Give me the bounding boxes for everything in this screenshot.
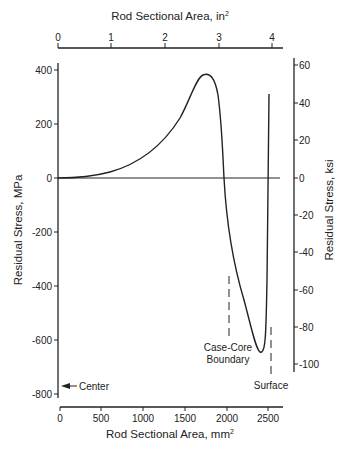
svg-text:-800: -800	[32, 389, 52, 400]
svg-text:-60: -60	[299, 285, 314, 296]
svg-text:200: 200	[35, 119, 52, 130]
bottom-axis-ticks: 0 500 1000 1500 2000 2500	[57, 407, 279, 424]
left-axis-ticks: 400 200 0 -200 -400 -600 -800	[32, 65, 58, 400]
residual-stress-chart: Rod Sectional Area, in2 0 1 2 3 4 400 20…	[0, 0, 343, 452]
svg-text:20: 20	[299, 135, 311, 146]
top-axis-ticks: 0 1 2 3 4	[55, 32, 275, 48]
svg-text:500: 500	[93, 413, 110, 424]
svg-text:40: 40	[299, 98, 311, 109]
svg-text:0: 0	[299, 173, 305, 184]
svg-text:60: 60	[299, 60, 311, 71]
center-arrow-icon	[61, 383, 77, 389]
svg-text:-40: -40	[299, 247, 314, 258]
svg-text:4: 4	[269, 32, 275, 43]
svg-text:400: 400	[35, 65, 52, 76]
bottom-axis-title: Rod Sectional Area, mm2	[106, 428, 234, 440]
center-label: Center	[79, 381, 110, 392]
svg-text:1500: 1500	[174, 413, 197, 424]
svg-text:-80: -80	[299, 322, 314, 333]
svg-text:-20: -20	[299, 210, 314, 221]
svg-text:2500: 2500	[257, 413, 280, 424]
residual-stress-curve	[58, 74, 269, 352]
svg-text:1000: 1000	[132, 413, 155, 424]
left-axis-title: Residual Stress, MPa	[12, 174, 24, 285]
surface-label: Surface	[254, 380, 289, 391]
svg-text:2000: 2000	[216, 413, 239, 424]
top-axis-title: Rod Sectional Area, in2	[111, 10, 229, 22]
svg-text:2: 2	[162, 32, 168, 43]
right-axis-title: Residual Stress, ksi	[323, 160, 335, 261]
svg-text:-200: -200	[32, 227, 52, 238]
svg-text:-400: -400	[32, 281, 52, 292]
case-core-label-2: Boundary	[207, 354, 250, 365]
svg-text:3: 3	[216, 32, 222, 43]
svg-text:0: 0	[57, 413, 63, 424]
right-axis-ticks: 60 40 20 0 -20 -40 -60 -80 -100	[294, 60, 319, 370]
svg-text:0: 0	[46, 173, 52, 184]
svg-text:0: 0	[55, 32, 61, 43]
svg-text:-600: -600	[32, 335, 52, 346]
svg-text:-100: -100	[299, 359, 319, 370]
svg-text:1: 1	[108, 32, 114, 43]
case-core-label-1: Case-Core	[204, 342, 253, 353]
